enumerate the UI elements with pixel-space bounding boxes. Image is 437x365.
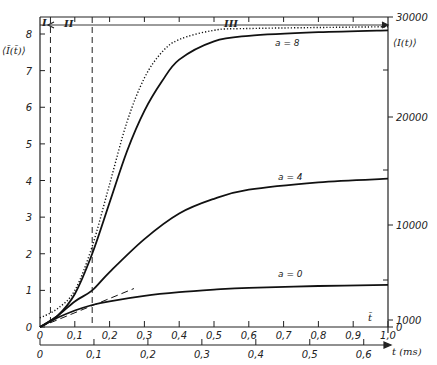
region-label-2: II	[63, 18, 74, 29]
y-left-tick-label: 0	[26, 322, 32, 333]
y-left-tick-label: 4	[26, 176, 32, 187]
chart: 01234567800,10,20,30,40,50,60,70,80,91,0…	[0, 0, 437, 365]
y-left-tick-label: 5	[26, 139, 32, 150]
y-left-tick-label: 8	[26, 29, 32, 40]
y-left-tick-label: 3	[26, 212, 32, 223]
y-right-tick-label: 10000	[396, 220, 428, 231]
x-lower-tick-label: 0,4	[248, 349, 264, 360]
x-upper-tick-label: 0,4	[171, 330, 187, 341]
y-right-tick-label: 1000	[396, 315, 421, 326]
y-left-tick-label: 7	[26, 66, 33, 77]
curve-label-a8: a = 8	[275, 38, 300, 48]
y-right-tick-label: 30000	[396, 12, 428, 23]
y-left-tick-label: 2	[26, 249, 32, 260]
region-label-1: I	[41, 17, 47, 28]
y-left-tick-label: 1	[26, 285, 32, 296]
y-right-tick-label: 20000	[396, 112, 428, 123]
x-lower-tick-label: 0,5	[302, 349, 318, 360]
x-upper-tick-label: 0,7	[276, 330, 293, 341]
x-upper-tick-label: 0,9	[345, 330, 361, 341]
x-lower-tick-label: 0,2	[140, 349, 156, 360]
x-upper-tick-label: 0,6	[241, 330, 257, 341]
y-left-tick-label: 6	[26, 102, 32, 113]
x-upper-tick-label: 0,2	[102, 330, 118, 341]
x-upper-tick-label: 0,5	[206, 330, 222, 341]
x-lower-tick-label: 0	[37, 349, 43, 360]
x-lower-tick-label: 0,1	[86, 349, 102, 360]
y-right-title: ⟨I(t)⟩	[393, 37, 417, 48]
x-upper-title: t̄	[368, 312, 373, 323]
x-upper-tick-label: 0,1	[67, 330, 83, 341]
y-left-title: ⟨Ī(t̄)⟩	[2, 45, 26, 56]
curve-label-a4: a = 4	[278, 172, 303, 182]
x-lower-arrow-icon	[384, 342, 391, 348]
x-upper-tick-label: 1,0	[380, 330, 396, 341]
x-lower-tick-label: 0,6	[356, 349, 372, 360]
x-lower-title: t (ms)	[392, 346, 422, 357]
x-upper-tick-label: 0,3	[136, 330, 152, 341]
region-label-3: III	[223, 18, 238, 29]
x-upper-tick-label: 0,8	[310, 330, 326, 341]
x-lower-tick-label: 0,3	[194, 349, 210, 360]
curve-label-a0: a = 0	[278, 269, 303, 279]
